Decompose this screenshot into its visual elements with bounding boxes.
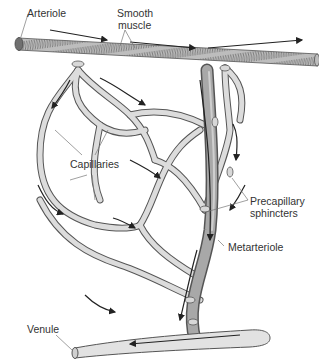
label-capillaries: Capillaries — [70, 159, 119, 170]
label-venule: Venule — [27, 324, 59, 335]
arteriole — [15, 38, 319, 67]
label-smooth-muscle-1: Smooth — [117, 8, 153, 19]
label-precapillary-2: sphincters — [250, 208, 298, 219]
label-smooth-muscle-2: muscle — [118, 20, 151, 31]
microcirculation-diagram — [0, 0, 319, 362]
venule — [72, 330, 270, 359]
label-metarteriole: Metarteriole — [228, 242, 283, 253]
label-precapillary-1: Precapillary — [250, 196, 305, 207]
label-arteriole: Arteriole — [27, 8, 66, 19]
